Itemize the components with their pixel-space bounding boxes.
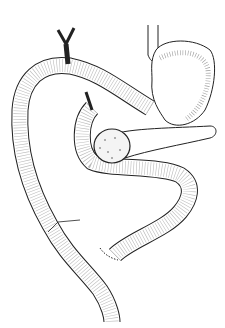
anatomy-drawing (0, 0, 225, 328)
illustration (0, 0, 225, 328)
